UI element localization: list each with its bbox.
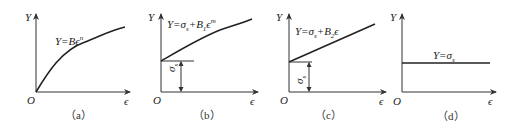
x-axis-label-a: ϵ [124,96,128,107]
caption-b: （b） [193,110,221,121]
x-axis-label-d: ϵ [488,96,492,107]
formula-b: Y=σs+B1ϵm [167,16,216,35]
y-axis-label-b: Y [148,12,154,23]
x-axis-label-c: ϵ [379,96,383,107]
origin-label-a: O [27,95,35,106]
panel-a [36,14,130,92]
formula-a: Y=Bϵn [55,33,83,47]
origin-label-d: O [393,96,401,107]
origin-label-c: O [280,95,288,106]
caption-c: （c） [315,110,342,121]
formula-d: Y=σs [433,50,455,66]
y-axis-label-c: Y [276,12,282,23]
caption-d: （d） [437,111,465,122]
intercept-label-c: σs [294,76,310,84]
intercept-label-b: σs [166,64,182,72]
y-axis-label-a: Y [25,12,31,23]
origin-label-b: O [153,95,161,106]
caption-a: （a） [65,110,92,121]
y-axis-label-d: Y [390,12,396,23]
x-axis-label-b: ϵ [250,96,254,107]
formula-c: Y=σs+B2ϵ [295,26,339,42]
